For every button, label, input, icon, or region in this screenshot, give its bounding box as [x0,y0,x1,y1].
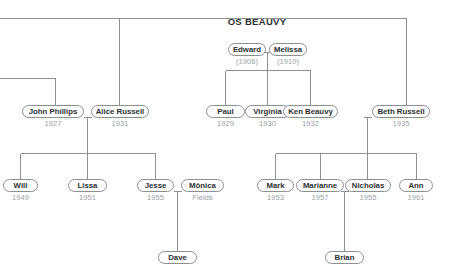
page-title: OS BEAUVY [192,16,322,27]
person-node-dave[interactable]: Dave [158,251,197,264]
person-name: Lissa [78,182,98,190]
person-sub: 1929 [206,120,245,128]
person-node-paul[interactable]: Paul [206,105,245,118]
person-node-melissa[interactable]: Melissa [269,43,307,56]
person-sub: 1955 [137,194,174,202]
person-name: Paul [217,108,233,116]
person-sub: 1949 [3,194,38,202]
person-sub: Fields [181,194,224,202]
person-node-brian[interactable]: Brian [325,251,364,264]
person-name: Dave [168,254,187,262]
person-node-will[interactable]: Will [3,179,38,192]
person-node-john-phillips[interactable]: John Phillips [22,105,84,118]
person-node-ken-beauvy[interactable]: Ken Beauvy [283,105,338,118]
person-sub: 1951 [68,194,107,202]
person-name: Mônica [189,182,216,190]
person-name: Beth Russell [377,108,424,116]
connector-lines [0,0,459,272]
person-name: Will [14,182,28,190]
person-name: Edward [233,46,261,54]
person-name: Nicholas [352,182,385,190]
person-node-mark[interactable]: Mark [257,179,294,192]
person-name: Brian [335,254,355,262]
person-name: John Phillips [29,108,78,116]
wire-top-rail [0,19,407,105]
wire-john-rail [0,79,56,105]
person-name: Melissa [274,46,302,54]
person-node-ann[interactable]: Ann [399,179,433,192]
person-node-alice-russell[interactable]: Alice Russell [91,105,149,118]
person-sub: 1931 [91,120,149,128]
person-sub: 1953 [257,194,294,202]
person-sub: 1961 [399,194,433,202]
person-node-beth-russell[interactable]: Beth Russell [372,105,430,118]
person-name: Virginia [253,108,281,116]
person-node-jesse[interactable]: Jesse [137,179,174,192]
person-name: Alice Russell [96,108,145,116]
person-sub: (1906) [228,58,266,66]
person-name: Ken Beauvy [288,108,333,116]
person-sub: 1957 [296,194,344,202]
person-sub: 1932 [283,120,338,128]
person-name: Marianne [303,182,337,190]
person-sub: 1935 [372,120,430,128]
person-node-lissa[interactable]: Lissa [68,179,107,192]
person-name: Jesse [145,182,167,190]
person-name: Mark [266,182,284,190]
family-tree-diagram: OS BEAUVY Edward (1906) Melissa (1910) J… [0,0,459,272]
person-sub: 1927 [22,120,84,128]
person-node-marianne[interactable]: Marianne [296,179,344,192]
person-node-nicholas[interactable]: Nicholas [345,179,391,192]
person-name: Ann [408,182,423,190]
person-node-monica[interactable]: Mônica [181,179,224,192]
person-sub: 1955 [345,194,391,202]
person-node-edward[interactable]: Edward [228,43,266,56]
person-sub: (1910) [269,58,307,66]
